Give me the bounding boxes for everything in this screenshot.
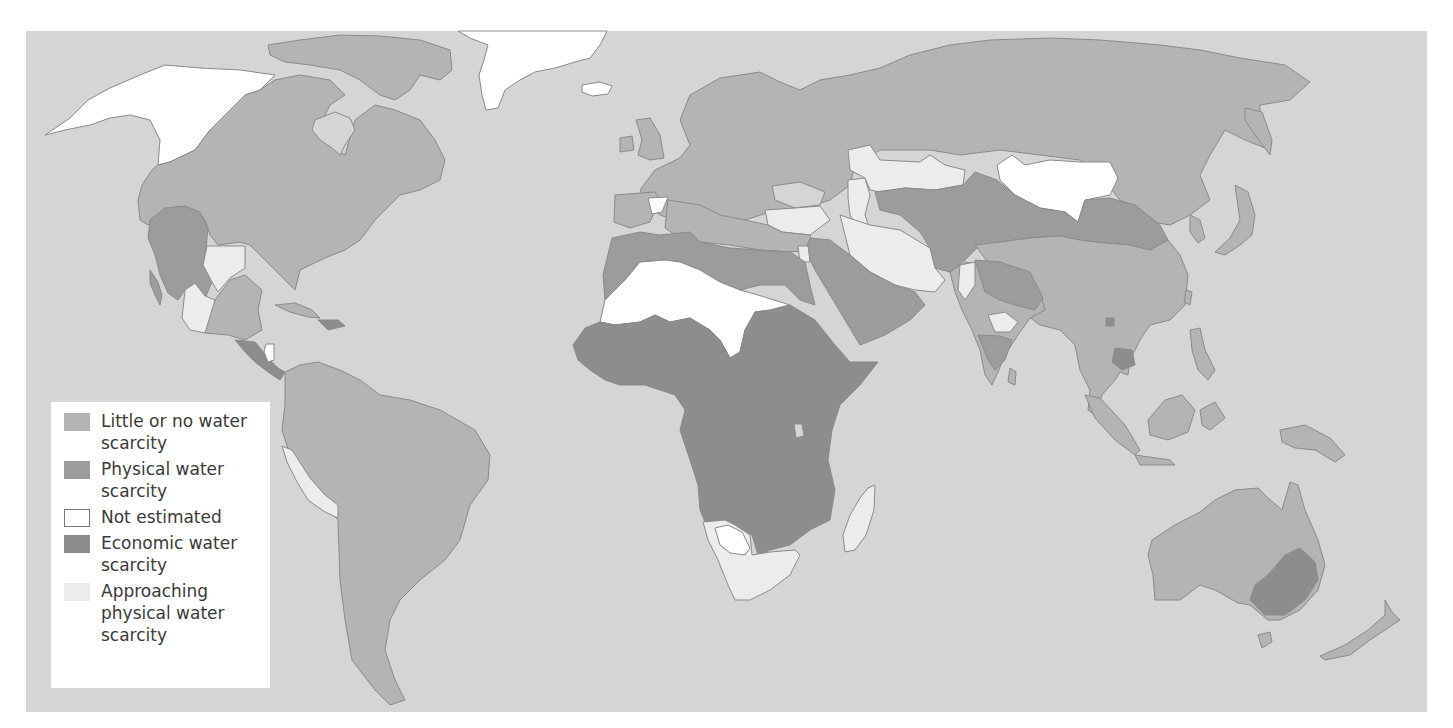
region-borneo	[1148, 395, 1195, 440]
legend-label-approaching: Approaching physical water scarcity	[101, 580, 251, 646]
region-iceland	[582, 82, 612, 96]
legend-swatch-economic	[64, 535, 90, 553]
map-legend: Little or no water scarcity Physical wat…	[51, 402, 270, 688]
region-tasmania	[1258, 632, 1272, 648]
region-cuba	[275, 303, 320, 318]
region-south-america	[282, 362, 490, 705]
legend-swatch-not-estimated	[64, 509, 90, 527]
region-taiwan	[1184, 290, 1192, 305]
region-madagascar	[843, 485, 875, 552]
region-laos-spot	[1106, 318, 1114, 326]
region-sri-lanka	[1008, 368, 1016, 385]
region-java	[1135, 455, 1175, 465]
region-sumatra	[1085, 395, 1140, 455]
region-central-america	[235, 340, 285, 380]
legend-label-little: Little or no water scarcity	[101, 410, 251, 454]
region-uk	[636, 118, 664, 160]
region-sulawesi	[1200, 402, 1225, 430]
region-lake-victoria	[794, 424, 804, 438]
legend-item-economic: Economic water scarcity	[64, 532, 262, 576]
legend-label-not-estimated: Not estimated	[101, 506, 251, 528]
region-korea	[1190, 215, 1205, 243]
legend-item-not-estimated: Not estimated	[64, 506, 262, 528]
region-hispaniola	[318, 320, 345, 330]
legend-swatch-little	[64, 413, 90, 431]
region-new-guinea	[1280, 425, 1345, 462]
region-ireland	[620, 136, 634, 152]
legend-swatch-approaching	[64, 583, 90, 601]
legend-swatch-physical	[64, 461, 90, 479]
region-new-zealand	[1320, 600, 1400, 660]
legend-item-physical: Physical water scarcity	[64, 458, 262, 502]
region-japan	[1215, 185, 1255, 255]
legend-label-physical: Physical water scarcity	[101, 458, 251, 502]
legend-item-little: Little or no water scarcity	[64, 410, 262, 454]
region-greenland	[458, 31, 607, 110]
region-philippines	[1190, 328, 1215, 380]
legend-item-approaching: Approaching physical water scarcity	[64, 580, 262, 646]
legend-label-economic: Economic water scarcity	[101, 532, 251, 576]
